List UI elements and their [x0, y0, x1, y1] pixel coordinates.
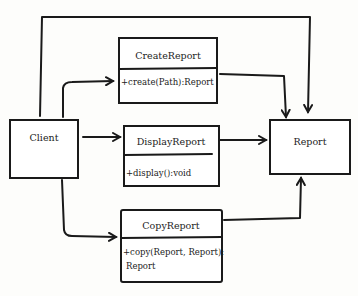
uml-diagram: Client CreateReport +create(Path):Report…	[0, 0, 358, 296]
edge-client-createreport	[63, 81, 113, 117]
edge-createreport-report	[220, 74, 286, 117]
class-method: +display():void	[126, 168, 192, 178]
class-name: Client	[30, 132, 59, 143]
class-client: Client	[10, 120, 78, 178]
class-name: CreateReport	[135, 50, 201, 61]
class-displayreport: DisplayReport +display():void	[124, 126, 219, 186]
edge-copyreport-report	[224, 178, 301, 220]
class-method: +create(Path):Report	[121, 77, 214, 87]
class-name: CopyReport	[142, 220, 200, 231]
class-method: +copy(Report, Report):	[123, 247, 224, 257]
class-name: DisplayReport	[137, 136, 206, 147]
class-createreport: CreateReport +create(Path):Report	[119, 38, 217, 103]
edge-client-copyreport	[62, 180, 116, 237]
class-name: Report	[294, 136, 327, 147]
class-copyreport: CopyReport +copy(Report, Report): Report	[121, 210, 224, 282]
class-report: Report	[270, 120, 350, 174]
class-method: Report	[126, 261, 156, 271]
